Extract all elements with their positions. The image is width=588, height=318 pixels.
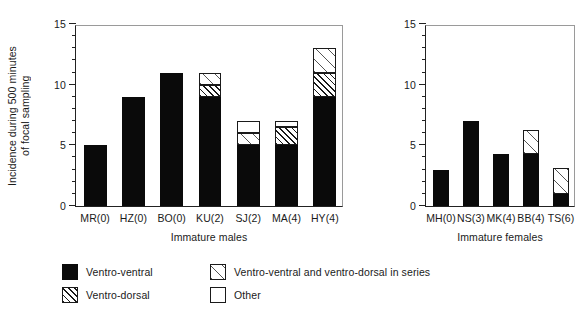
legend-swatch-vv-icon	[62, 264, 78, 280]
x-tick-label: SJ(2)	[235, 212, 261, 224]
y-tick-minor	[422, 156, 426, 157]
bar-mh0	[433, 170, 449, 206]
y-tick-minor	[72, 96, 76, 97]
y-tick-major	[69, 144, 76, 145]
y-tick-label: 10	[54, 79, 66, 91]
bar-segment-vv	[553, 194, 569, 206]
bar-segment-series	[523, 130, 539, 154]
y-tick-minor	[422, 120, 426, 121]
plot-area-males: 051015MR(0)HZ(0)BO(0)KU(2)SJ(2)MA(4)HY(4…	[75, 25, 343, 207]
bar-segment-vv	[199, 97, 222, 206]
y-tick-label: 15	[404, 18, 416, 30]
chart-figure: Incidence during 500 minutes of focal sa…	[0, 0, 588, 318]
legend-item-vv: Ventro-ventral	[62, 264, 153, 280]
y-tick-label: 10	[404, 79, 416, 91]
y-tick-major	[69, 23, 76, 24]
legend-label: Ventro-ventral	[86, 266, 153, 278]
bar-segment-other	[275, 121, 298, 127]
x-tick-label: BO(0)	[157, 212, 186, 224]
y-tick-major	[419, 84, 426, 85]
y-tick-label: 15	[54, 18, 66, 30]
bar-bb4	[523, 130, 539, 206]
y-tick-major	[419, 23, 426, 24]
bar-segment-vv	[275, 145, 298, 206]
x-tick-label: TS(6)	[548, 212, 575, 224]
bar-mr0	[84, 145, 107, 206]
x-tick-label: BB(4)	[517, 212, 544, 224]
bar-sj2	[237, 121, 260, 206]
legend-label: Other	[234, 289, 261, 301]
y-tick-minor	[72, 47, 76, 48]
y-tick-minor	[422, 132, 426, 133]
y-tick-label: 0	[60, 200, 66, 212]
y-tick-minor	[72, 169, 76, 170]
legend: Ventro-ventralVentro-dorsalVentro-ventra…	[62, 264, 562, 310]
y-tick-minor	[422, 193, 426, 194]
bar-ns3	[463, 121, 479, 206]
bar-ku2	[199, 73, 222, 206]
x-tick-label: KU(2)	[196, 212, 224, 224]
y-tick-minor	[72, 59, 76, 60]
y-tick-minor	[72, 35, 76, 36]
y-tick-minor	[72, 193, 76, 194]
y-tick-minor	[72, 72, 76, 73]
y-tick-major	[69, 84, 76, 85]
bar-ts6	[553, 168, 569, 206]
bar-bo0	[160, 73, 183, 206]
bar-segment-vv	[313, 97, 336, 206]
y-tick-minor	[422, 59, 426, 60]
bar-segment-vv	[493, 154, 509, 206]
y-tick-minor	[422, 181, 426, 182]
legend-item-other: Other	[210, 287, 261, 303]
y-tick-major	[69, 205, 76, 206]
y-tick-minor	[72, 181, 76, 182]
y-tick-minor	[422, 108, 426, 109]
legend-label: Ventro-dorsal	[86, 289, 150, 301]
y-tick-minor	[72, 132, 76, 133]
bar-segment-vv	[84, 145, 107, 206]
y-tick-major	[419, 205, 426, 206]
bar-segment-other	[237, 121, 260, 133]
x-axis-title-males: Immature males	[171, 231, 248, 243]
y-tick-label: 5	[60, 139, 66, 151]
x-tick-label: MR(0)	[80, 212, 110, 224]
y-tick-minor	[422, 96, 426, 97]
bar-segment-vv	[433, 170, 449, 206]
bar-segment-series	[237, 133, 260, 145]
y-axis-title: Incidence during 500 minutes of focal sa…	[6, 28, 34, 204]
bar-segment-series	[313, 48, 336, 72]
y-tick-minor	[422, 35, 426, 36]
y-tick-minor	[72, 120, 76, 121]
x-tick-label: MK(4)	[486, 212, 515, 224]
bar-segment-vv	[160, 73, 183, 206]
bar-mk4	[493, 154, 509, 206]
x-tick-label: HY(4)	[311, 212, 339, 224]
x-tick-label: MH(0)	[426, 212, 456, 224]
x-axis-title-females: Immature females	[457, 231, 543, 243]
y-tick-minor	[422, 169, 426, 170]
legend-swatch-other-icon	[210, 287, 226, 303]
legend-item-vd: Ventro-dorsal	[62, 287, 150, 303]
y-tick-minor	[422, 47, 426, 48]
y-tick-minor	[72, 156, 76, 157]
legend-item-series: Ventro-ventral and ventro-dorsal in seri…	[210, 264, 430, 280]
y-tick-label: 0	[410, 200, 416, 212]
y-tick-major	[419, 144, 426, 145]
bar-hy4	[313, 48, 336, 206]
bar-ma4	[275, 121, 298, 206]
bar-segment-series	[199, 73, 222, 85]
x-tick-label: MA(4)	[272, 212, 301, 224]
x-tick-label: NS(3)	[457, 212, 485, 224]
x-tick-label: HZ(0)	[120, 212, 147, 224]
legend-label: Ventro-ventral and ventro-dorsal in seri…	[234, 266, 430, 278]
bar-segment-vv	[463, 121, 479, 206]
y-tick-label: 5	[410, 139, 416, 151]
legend-swatch-series-icon	[210, 264, 226, 280]
bar-segment-vd	[313, 73, 336, 97]
bar-segment-vd	[199, 85, 222, 97]
plot-area-females: 051015MH(0)NS(3)MK(4)BB(4)TS(6)	[425, 25, 575, 207]
y-tick-minor	[422, 72, 426, 73]
y-tick-minor	[72, 108, 76, 109]
bar-segment-vv	[523, 154, 539, 206]
bar-segment-vd	[275, 127, 298, 145]
